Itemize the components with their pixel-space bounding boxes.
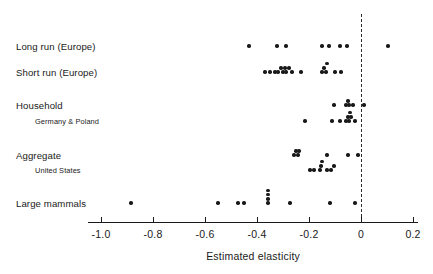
data-point <box>345 44 348 47</box>
category-label: Aggregate <box>16 150 61 161</box>
data-point <box>322 66 325 69</box>
data-point <box>386 44 389 47</box>
data-point <box>332 164 335 167</box>
data-point <box>296 153 299 156</box>
data-point <box>318 168 321 171</box>
data-point <box>292 153 295 156</box>
x-axis-tick <box>153 217 154 222</box>
data-point <box>284 44 287 47</box>
x-axis-tick-label: -0.8 <box>144 228 163 240</box>
data-point <box>266 193 269 196</box>
data-point <box>216 201 219 204</box>
data-point <box>299 70 302 73</box>
data-point <box>338 119 341 122</box>
data-point <box>303 119 306 122</box>
data-point <box>308 168 311 171</box>
category-label: Household <box>16 100 63 111</box>
x-axis-title: Estimated elasticity <box>206 250 300 262</box>
data-point <box>329 168 332 171</box>
data-point <box>266 197 269 200</box>
data-point <box>247 44 250 47</box>
data-point <box>266 201 269 204</box>
dot-plot-chart: -1.0-0.8-0.6-0.4-0.200.2Estimated elasti… <box>0 0 433 274</box>
x-axis-tick-label: 0.2 <box>405 228 420 240</box>
data-point <box>297 149 300 152</box>
data-point <box>268 70 271 73</box>
data-point <box>290 70 293 73</box>
zero-reference-line <box>361 14 362 222</box>
category-label: Short run (Europe) <box>16 67 97 78</box>
data-point <box>320 160 323 163</box>
data-point <box>320 44 323 47</box>
x-axis-tick <box>309 217 310 222</box>
data-point <box>236 201 239 204</box>
data-point <box>339 70 342 73</box>
data-point <box>332 103 335 106</box>
data-point <box>266 189 269 192</box>
data-point <box>279 66 282 69</box>
data-point <box>328 201 331 204</box>
data-point <box>338 44 341 47</box>
data-point <box>327 44 330 47</box>
category-label: Large mammals <box>16 198 86 209</box>
data-point <box>351 103 354 106</box>
data-point <box>362 103 365 106</box>
data-point <box>319 164 322 167</box>
data-point <box>129 201 132 204</box>
data-point <box>324 70 327 73</box>
data-point <box>348 111 351 114</box>
x-axis-line <box>88 222 418 223</box>
category-label: Long run (Europe) <box>16 41 96 52</box>
x-axis-tick <box>101 217 102 222</box>
x-axis-tick-label: 0 <box>358 228 364 240</box>
data-point <box>320 70 323 73</box>
data-point <box>312 168 315 171</box>
data-point <box>346 99 349 102</box>
data-point <box>346 153 349 156</box>
category-label: United States <box>35 166 81 175</box>
data-point <box>349 115 352 118</box>
x-axis-tick <box>257 217 258 222</box>
data-point <box>284 70 287 73</box>
data-point <box>325 153 328 156</box>
data-point <box>347 119 350 122</box>
data-point <box>242 201 245 204</box>
data-point <box>263 70 266 73</box>
data-point <box>353 201 356 204</box>
data-point <box>288 201 291 204</box>
data-point <box>287 66 290 69</box>
data-point <box>347 103 350 106</box>
x-axis-tick-label: -0.6 <box>196 228 215 240</box>
data-point <box>356 153 359 156</box>
x-axis-tick-label: -0.2 <box>300 228 319 240</box>
category-label: Germany & Poland <box>35 117 99 126</box>
x-axis-tick-label: -1.0 <box>92 228 111 240</box>
data-point <box>353 119 356 122</box>
data-point <box>276 70 279 73</box>
x-axis-tick <box>205 217 206 222</box>
data-point <box>333 70 336 73</box>
data-point <box>283 66 286 69</box>
x-axis-tick-label: -0.4 <box>248 228 267 240</box>
data-point <box>330 119 333 122</box>
data-point <box>275 44 278 47</box>
plot-area: -1.0-0.8-0.6-0.4-0.200.2Estimated elasti… <box>0 0 433 232</box>
data-point <box>325 62 328 65</box>
x-axis-tick <box>413 217 414 222</box>
data-point <box>325 168 328 171</box>
x-axis-tick <box>361 217 362 222</box>
